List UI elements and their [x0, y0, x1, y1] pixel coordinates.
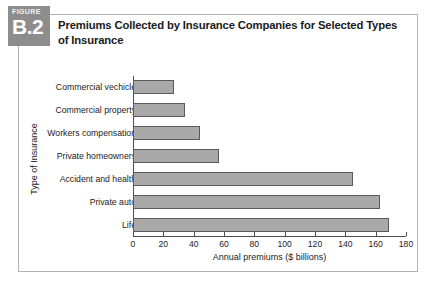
x-axis-tick-label: 100 [277, 239, 291, 249]
x-axis-tick [406, 232, 407, 236]
x-axis-tick-label: 60 [219, 239, 229, 249]
x-axis-tick-label: 40 [189, 239, 199, 249]
x-axis-tick [133, 232, 134, 236]
x-axis-tick [315, 232, 316, 236]
bar-life [133, 218, 389, 232]
x-axis-tick-label: 160 [368, 239, 382, 249]
y-axis-tick-label: Accident and health [24, 174, 136, 184]
chart-axes: 020406080100120140160180 [133, 76, 408, 236]
x-axis-tick-label: 0 [131, 239, 136, 249]
bar-private-homeowners [133, 149, 219, 163]
x-axis-tick-label: 180 [399, 239, 413, 249]
bar-commercial-vechicle [133, 80, 174, 94]
x-axis-tick-label: 80 [250, 239, 260, 249]
x-axis-tick-label: 140 [338, 239, 352, 249]
y-axis-tick-label: Commercial vechicle [24, 82, 136, 92]
y-axis-tick-label: Life [24, 220, 136, 230]
x-axis-tick-label: 20 [159, 239, 169, 249]
x-axis-tick [163, 232, 164, 236]
bar-private-auto [133, 195, 380, 209]
bar-commercial-property [133, 103, 185, 117]
x-axis-tick [285, 232, 286, 236]
bar-accident-and-health [133, 172, 353, 186]
x-axis-tick [254, 232, 255, 236]
x-axis-tick-label: 120 [308, 239, 322, 249]
x-axis-tick [376, 232, 377, 236]
y-axis-tick-label: Commercial property [24, 105, 136, 115]
x-axis-tick [224, 232, 225, 236]
chart-plot-area: Type of Insurance Commercial vechicleCom… [18, 14, 418, 272]
y-axis-tick-label: Private homeowners [24, 151, 136, 161]
x-axis-line [133, 236, 406, 237]
x-axis-tick [345, 232, 346, 236]
x-axis-tick [194, 232, 195, 236]
figure-number-badge: FIGURE B.2 [8, 6, 50, 46]
x-axis-title: Annual premiums ($ billions) [133, 252, 406, 262]
y-axis-tick-label: Workers compensation [24, 128, 136, 138]
y-axis-category-labels: Commercial vechicleCommercial propertyWo… [24, 76, 136, 236]
y-axis-tick-label: Private auto [24, 197, 136, 207]
figure-number-label: B.2 [12, 16, 50, 37]
bar-workers-compensation [133, 126, 200, 140]
